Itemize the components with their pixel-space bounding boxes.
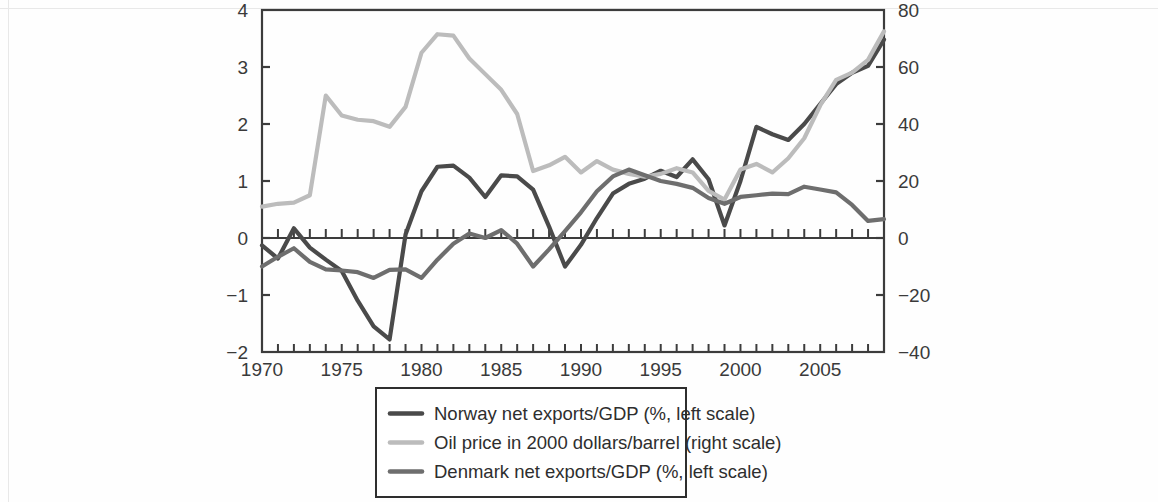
legend-box: Norway net exports/GDP (%, left scale)Oi…: [376, 388, 782, 497]
series-line-norway: [262, 40, 884, 340]
y-tick-label-right: 0: [898, 228, 909, 249]
plot-frame: [262, 10, 884, 352]
series-lines: [262, 31, 884, 339]
figure-container: −2−101234 −40−20020406080 19701975198019…: [0, 0, 1158, 502]
x-tick-label: 2000: [719, 359, 761, 380]
y-axis-left: −2−101234: [226, 0, 270, 363]
x-axis: 19701975198019851990199520002005: [241, 229, 884, 380]
y-tick-label-right: 80: [898, 0, 919, 21]
x-tick-label: 1970: [241, 359, 283, 380]
series-line-oil: [262, 31, 884, 206]
series-line-denmark: [262, 170, 884, 278]
y-tick-label-left: 0: [237, 228, 248, 249]
y-tick-label-left: 1: [237, 171, 248, 192]
legend-label: Norway net exports/GDP (%, left scale): [434, 403, 755, 424]
y-tick-label-left: 4: [237, 0, 248, 21]
x-tick-label: 1990: [560, 359, 602, 380]
x-tick-label: 2005: [799, 359, 841, 380]
y-tick-label-right: −40: [898, 342, 930, 363]
x-tick-label: 1995: [640, 359, 682, 380]
y-tick-label-left: −1: [226, 285, 248, 306]
x-tick-label: 1975: [321, 359, 363, 380]
y-tick-label-right: 20: [898, 171, 919, 192]
oil-price-net-exports-line-chart: −2−101234 −40−20020406080 19701975198019…: [0, 0, 1158, 502]
y-tick-label-right: 40: [898, 114, 919, 135]
y-tick-label-left: 3: [237, 57, 248, 78]
legend-label: Denmark net exports/GDP (%, left scale): [434, 461, 768, 482]
y-tick-label-right: 60: [898, 57, 919, 78]
x-tick-label: 1985: [480, 359, 522, 380]
y-tick-label-left: 2: [237, 114, 248, 135]
legend-label: Oil price in 2000 dollars/barrel (right …: [434, 432, 782, 453]
x-tick-label: 1980: [400, 359, 442, 380]
y-tick-label-right: −20: [898, 285, 930, 306]
